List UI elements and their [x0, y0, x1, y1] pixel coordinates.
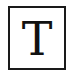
text-tool-icon[interactable]: T	[8, 6, 66, 70]
letter-t: T	[22, 16, 53, 62]
